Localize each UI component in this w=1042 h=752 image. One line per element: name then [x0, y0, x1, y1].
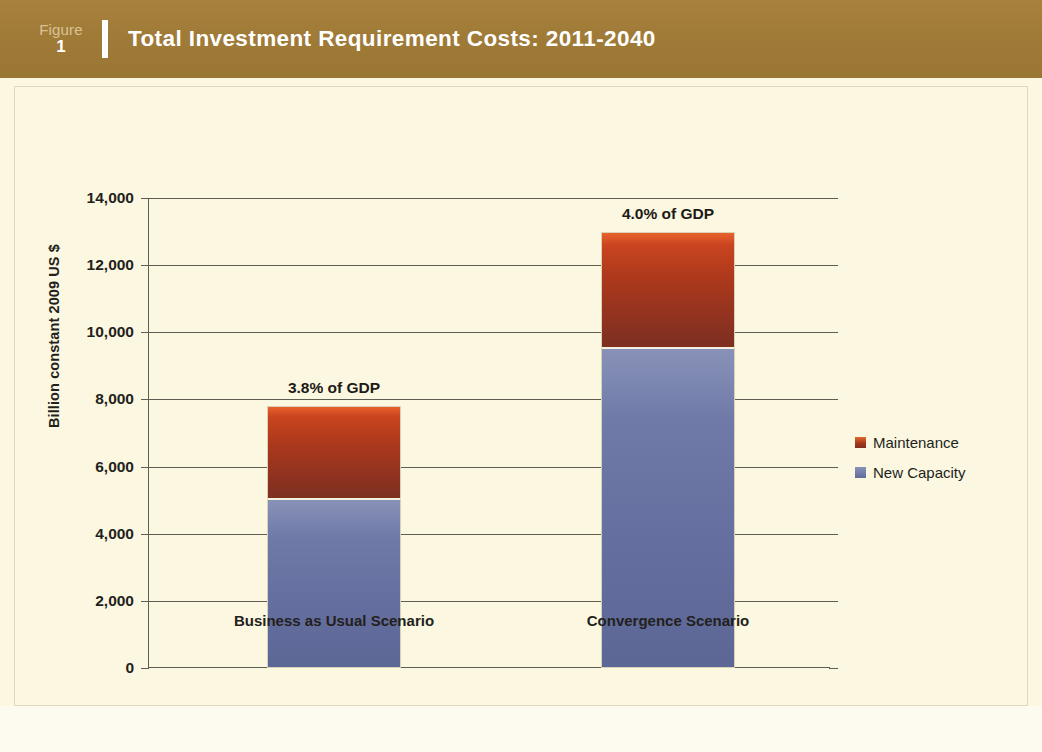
header-divider [102, 20, 108, 58]
y-axis-tick-label: 2,000 [95, 592, 134, 610]
y-axis-tick-right [829, 198, 838, 199]
bar-annotation-label: 4.0% of GDP [622, 205, 714, 223]
y-axis-tick-label: 8,000 [95, 390, 134, 408]
bar-segment-maintenance[interactable] [267, 406, 401, 498]
legend-item-new-capacity[interactable]: New Capacity [855, 464, 966, 480]
y-axis-title: Billion constant 2009 US $ [46, 244, 62, 428]
plot-area: 14,00012,00010,0008,0006,0004,0002,0000 … [148, 198, 830, 668]
category-label: Convergence Scenario [587, 612, 750, 629]
y-axis-tick-label: 4,000 [95, 525, 134, 543]
chart-legend: Maintenance New Capacity [855, 434, 966, 494]
y-axis-tick-right [829, 399, 838, 400]
figure-number-block: Figure 1 [22, 22, 100, 57]
bar-group[interactable]: 4.0% of GDP [601, 198, 735, 668]
chart-canvas: Billion constant 2009 US $ 14,00012,0001… [0, 78, 1042, 698]
y-axis-tick-right [829, 601, 838, 602]
y-axis-tick [141, 668, 149, 669]
y-axis-tick-right [829, 534, 838, 535]
bar-annotation-label: 3.8% of GDP [288, 379, 380, 397]
legend-swatch-maintenance-icon [855, 437, 866, 448]
figure-word-label: Figure [22, 22, 100, 38]
legend-label-new-capacity: New Capacity [873, 464, 966, 481]
y-axis-tick-label: 10,000 [87, 323, 134, 341]
legend-item-maintenance[interactable]: Maintenance [855, 434, 966, 450]
figure-title: Total Investment Requirement Costs: 2011… [128, 26, 656, 52]
y-axis-tick-right [829, 668, 838, 669]
figure-number-label: 1 [22, 38, 100, 56]
category-label: Business as Usual Scenario [234, 612, 434, 629]
legend-label-maintenance: Maintenance [873, 434, 959, 451]
legend-swatch-new-capacity-icon [855, 467, 866, 478]
bar-group[interactable]: 3.8% of GDP [267, 198, 401, 668]
y-axis-tick-right [829, 332, 838, 333]
y-axis-tick-label: 12,000 [87, 256, 134, 274]
y-axis-tick-label: 14,000 [87, 189, 134, 207]
figure-header-band: Figure 1 Total Investment Requirement Co… [0, 0, 1042, 78]
y-axis-tick-label: 0 [125, 659, 134, 677]
y-axis-tick-right [829, 265, 838, 266]
bar-segment-maintenance[interactable] [601, 232, 735, 348]
y-axis-tick-right [829, 467, 838, 468]
page-bottom-strip [0, 706, 1042, 752]
y-axis-tick-label: 6,000 [95, 458, 134, 476]
y-axis-line [148, 198, 149, 668]
bar-segment-new-capacity[interactable] [267, 498, 401, 668]
